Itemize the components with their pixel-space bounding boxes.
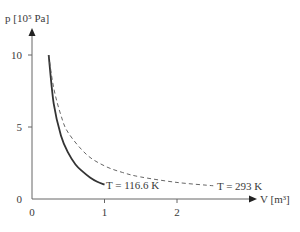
y-axis-arrow-icon xyxy=(29,28,36,36)
isotherm-116k-curve xyxy=(49,55,105,185)
x-axis-label: V [m³] xyxy=(260,193,290,205)
y-tick-label: 5 xyxy=(17,121,23,133)
x-axis: V [m³] xyxy=(32,193,290,205)
pv-diagram: p [10⁵ Pa] V [m³] 0120510 T = 116.6 KT =… xyxy=(0,0,300,232)
axis-ticks: 0120510 xyxy=(11,49,180,218)
annotations: T = 116.6 KT = 293 K xyxy=(106,179,262,192)
x-tick-label: 0 xyxy=(29,206,35,218)
series-group xyxy=(49,55,214,186)
curve-label: T = 293 K xyxy=(217,180,262,192)
y-axis: p [10⁵ Pa] xyxy=(5,12,49,199)
curve-label: T = 116.6 K xyxy=(106,179,159,191)
x-axis-arrow-icon xyxy=(249,196,257,203)
x-tick-label: 1 xyxy=(102,206,108,218)
y-tick-label: 0 xyxy=(17,193,23,205)
x-tick-label: 2 xyxy=(174,206,180,218)
y-tick-label: 10 xyxy=(11,49,23,61)
isotherm-293k-curve xyxy=(49,55,214,186)
y-axis-label: p [10⁵ Pa] xyxy=(5,12,49,24)
